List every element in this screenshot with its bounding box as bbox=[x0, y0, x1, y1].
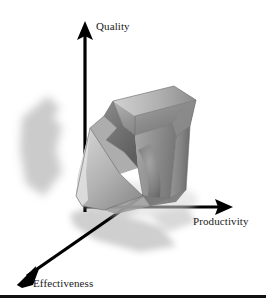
figure-container: Quality Productivity Effectiveness bbox=[0, 0, 266, 306]
cast-shadow-left bbox=[20, 96, 62, 196]
diagram-canvas bbox=[0, 0, 266, 306]
axis-label-quality: Quality bbox=[96, 20, 130, 32]
axis-label-productivity: Productivity bbox=[193, 215, 249, 227]
axis-label-effectiveness: Effectiveness bbox=[33, 277, 93, 289]
bottom-rule bbox=[0, 295, 266, 298]
chevron-arrow-solid bbox=[76, 86, 198, 218]
